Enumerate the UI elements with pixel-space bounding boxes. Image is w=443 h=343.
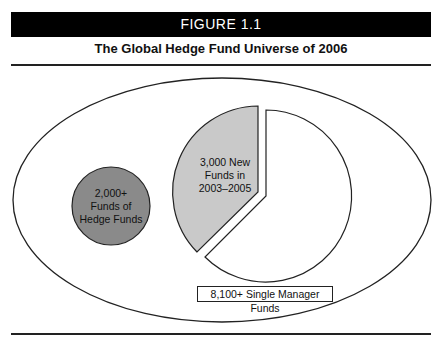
new-funds-label: 3,000 New Funds in 2003–2005 bbox=[192, 156, 258, 195]
new-funds-line2: Funds in bbox=[192, 169, 258, 182]
fof-line1: 2,000+ bbox=[76, 187, 146, 200]
new-funds-line1: 3,000 New bbox=[192, 156, 258, 169]
funds-of-funds-label: 2,000+ Funds of Hedge Funds bbox=[76, 187, 146, 226]
fof-line2: Funds of bbox=[76, 200, 146, 213]
single-manager-label: 8,100+ Single Manager Funds bbox=[197, 286, 333, 302]
new-funds-line3: 2003–2005 bbox=[192, 182, 258, 195]
fof-line3: Hedge Funds bbox=[76, 213, 146, 226]
